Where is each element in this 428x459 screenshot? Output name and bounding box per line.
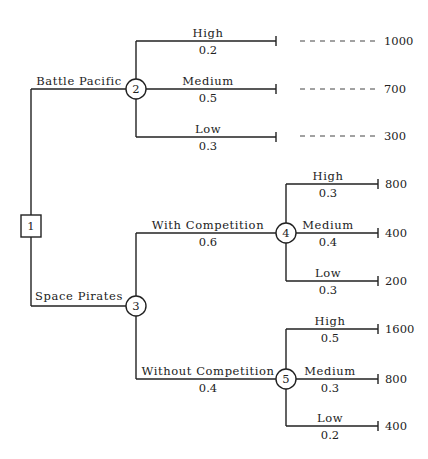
decision-tree: Battle Pacific Space Pirates High 0.2 Me…	[0, 0, 428, 459]
node5-payoff-high: 1600	[385, 322, 414, 336]
node4-prob-medium: 0.4	[319, 235, 337, 249]
node5-label-high: High	[315, 314, 346, 328]
chance-node-4-label: 4	[282, 226, 289, 240]
node4-prob-low: 0.3	[319, 283, 337, 297]
chance-node-4: 4	[276, 223, 296, 243]
node5-label-low: Low	[317, 411, 343, 425]
node3-label-without: Without Competition	[141, 364, 274, 378]
decision-node-1: 1	[21, 215, 41, 237]
node5-payoff-low: 400	[385, 419, 407, 433]
node4-label-high: High	[313, 169, 344, 183]
chance-node-5-label: 5	[282, 372, 289, 386]
node4-payoff-low: 200	[385, 274, 407, 288]
decision-label-space-pirates: Space Pirates	[35, 289, 123, 303]
chance-node-3: 3	[126, 296, 146, 316]
node4-label-medium: Medium	[302, 218, 354, 232]
node4-prob-high: 0.3	[319, 186, 337, 200]
chance-node-3-label: 3	[132, 299, 139, 313]
node2-prob-low: 0.3	[199, 139, 217, 153]
chance-node-2: 2	[126, 79, 146, 99]
node2-prob-medium: 0.5	[199, 91, 217, 105]
node4-payoff-medium: 400	[385, 226, 407, 240]
node2-label-low: Low	[195, 122, 221, 136]
node2-payoff-low: 300	[384, 129, 406, 143]
node2-payoff-medium: 700	[384, 82, 406, 96]
node5-prob-medium: 0.3	[321, 381, 339, 395]
node3-label-with: With Competition	[152, 218, 264, 232]
node5-prob-high: 0.5	[321, 331, 339, 345]
node2-payoff-high: 1000	[384, 34, 413, 48]
node3-prob-with: 0.6	[199, 235, 217, 249]
decision-label-battle-pacific: Battle Pacific	[36, 74, 122, 88]
node2-label-high: High	[193, 26, 224, 40]
node2-prob-high: 0.2	[199, 43, 217, 57]
node3-prob-without: 0.4	[199, 381, 217, 395]
decision-node-1-label: 1	[27, 219, 34, 233]
node5-prob-low: 0.2	[321, 428, 339, 442]
node4-label-low: Low	[315, 266, 341, 280]
node4-payoff-high: 800	[385, 177, 407, 191]
node5-label-medium: Medium	[304, 364, 356, 378]
node2-label-medium: Medium	[182, 74, 234, 88]
chance-node-5: 5	[276, 369, 296, 389]
chance-node-2-label: 2	[132, 82, 139, 96]
node5-payoff-medium: 800	[385, 372, 407, 386]
